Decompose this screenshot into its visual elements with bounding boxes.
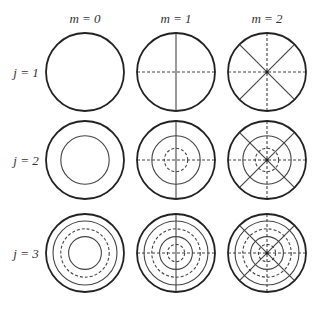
column-label-m0: m = 0 bbox=[69, 11, 101, 26]
column-label-m1: m = 1 bbox=[160, 11, 191, 26]
center-dot bbox=[265, 158, 268, 161]
mode-cell-j3-m0 bbox=[46, 214, 124, 292]
row-label-j2: j = 2 bbox=[11, 153, 39, 168]
zernike-mode-diagram: m = 0 m = 1 m = 2 j = 1 j = 2 j = 3 bbox=[0, 0, 321, 310]
mode-cell-j3-m1 bbox=[137, 214, 215, 292]
mode-cell-j3-m2 bbox=[228, 214, 306, 292]
column-labels: m = 0 m = 1 m = 2 bbox=[69, 11, 283, 26]
mode-cell-j1-m1 bbox=[137, 33, 215, 111]
outer-circle bbox=[46, 121, 124, 199]
column-label-m2: m = 2 bbox=[251, 11, 283, 26]
mode-cell-j2-m2 bbox=[228, 121, 306, 199]
mode-cell-j2-m1 bbox=[137, 121, 215, 199]
solid-ring bbox=[69, 237, 102, 270]
row-label-j1: j = 1 bbox=[11, 65, 38, 80]
mode-cell-j1-m2 bbox=[228, 33, 306, 111]
outer-circle bbox=[46, 214, 124, 292]
mode-cell-j1-m0 bbox=[46, 33, 124, 111]
center-dot bbox=[265, 251, 268, 254]
row-labels: j = 1 j = 2 j = 3 bbox=[11, 65, 39, 261]
mode-cell-j2-m0 bbox=[46, 121, 124, 199]
center-dot bbox=[265, 70, 268, 73]
solid-ring bbox=[61, 136, 109, 184]
outer-circle bbox=[46, 33, 124, 111]
mode-grid bbox=[46, 33, 306, 292]
solid-ring bbox=[53, 221, 117, 285]
row-label-j3: j = 3 bbox=[11, 246, 39, 261]
